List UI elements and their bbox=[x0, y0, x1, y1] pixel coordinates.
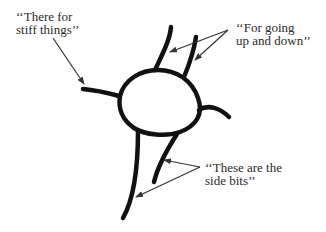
arrow-stiff bbox=[53, 38, 84, 84]
label-up-and-down: ‘‘For going up and down’’ bbox=[236, 21, 311, 47]
bottom-right-process bbox=[154, 134, 177, 182]
label-stiff-things: ‘‘There for stiff things’’ bbox=[16, 10, 79, 36]
bottom-left-process bbox=[123, 131, 138, 218]
top-left-process bbox=[155, 27, 171, 70]
arrow-side-2 bbox=[136, 167, 200, 197]
label-stiff-line-2: stiff things’’ bbox=[16, 23, 79, 36]
cell-body bbox=[120, 70, 200, 135]
label-side-line-2: side bits’’ bbox=[205, 174, 282, 187]
label-side-bits: ‘‘These are the side bits’’ bbox=[205, 161, 282, 187]
arrow-updown-1 bbox=[170, 30, 228, 52]
arrow-updown-2 bbox=[195, 30, 228, 60]
label-updown-line-2: up and down’’ bbox=[236, 34, 311, 47]
right-process bbox=[199, 107, 229, 117]
arrow-side-1 bbox=[164, 160, 200, 167]
left-process bbox=[83, 89, 119, 96]
